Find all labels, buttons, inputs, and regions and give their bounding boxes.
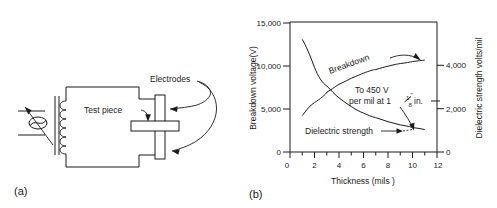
x-axis-title: Thickness (mils ) xyxy=(331,176,395,186)
figure-panel-b: 15,000 10,000 5,000 0 Breakdown voltage(… xyxy=(0,0,497,208)
x-tick-label-2: 2 xyxy=(312,161,317,170)
y-tick-label-0: 0 xyxy=(277,148,282,157)
annotation-line-2-suffix: in. xyxy=(414,96,423,106)
y-axis-title-right: Dielectric strength volts/mil xyxy=(474,37,484,138)
y-tick-label-5000: 5,000 xyxy=(261,105,282,114)
annotation-line-1: To 450 V xyxy=(355,85,389,95)
y-axis-right: 0 2,000 4,000 Dielectric strength volts/… xyxy=(437,37,484,157)
x-tick-label-8: 8 xyxy=(386,161,391,170)
y-tick-label-15000: 15,000 xyxy=(257,19,282,28)
x-tick-label-0: 0 xyxy=(285,161,290,170)
x-tick-label-4: 4 xyxy=(337,161,342,170)
y-axis-title-left: Breakdown voltage(V) xyxy=(248,46,258,130)
annotation-fraction-denominator: 8 xyxy=(409,102,413,108)
dielectric-series-label: Dielectric strength xyxy=(305,126,373,136)
annotation-line-2-prefix: per mil at 1 xyxy=(349,96,391,106)
breakdown-arrowhead xyxy=(413,53,421,60)
y2-tick-label-2000: 2,000 xyxy=(446,105,467,114)
dielectric-arrowhead xyxy=(397,128,404,133)
breakdown-label-callout: Breakdown xyxy=(327,52,421,76)
caption-b: (b) xyxy=(249,188,262,200)
x-tick-label-12: 12 xyxy=(434,161,443,170)
dielectric-strength-label-callout: Dielectric strength xyxy=(305,126,412,136)
x-axis: 0 2 4 6 8 10 12 Thickness (mils ) xyxy=(285,152,443,186)
y2-tick-label-0: 0 xyxy=(446,148,451,157)
y-axis-left: 15,000 10,000 5,000 0 Breakdown voltage(… xyxy=(248,19,290,157)
x-tick-label-10: 10 xyxy=(408,161,417,170)
x-tick-label-6: 6 xyxy=(361,161,366,170)
y-tick-label-10000: 10,000 xyxy=(257,62,282,71)
y2-tick-label-4000: 4,000 xyxy=(446,61,467,70)
panel-b-svg: 15,000 10,000 5,000 0 Breakdown voltage(… xyxy=(0,0,497,208)
